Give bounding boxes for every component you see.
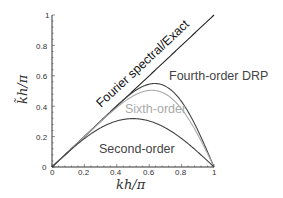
y-tick-1: 1 [45, 11, 50, 20]
x-tick-08: 0.8 [175, 168, 187, 177]
x-axis-label: kh/π [116, 177, 146, 192]
y-tick-06: 0.6 [36, 72, 48, 81]
y-tick-04: 0.4 [36, 103, 48, 112]
x-tick-04: 0.4 [110, 168, 122, 177]
x-tick-02: 0.2 [78, 168, 90, 177]
label-fourth-drp: Fourth-order DRP [169, 69, 268, 83]
y-axis-label: k̃h/π [14, 74, 30, 104]
label-sixth: Sixth-order [125, 102, 186, 116]
y-tick-0: 0 [42, 163, 47, 172]
x-tick-1: 1 [212, 168, 217, 177]
chart: 0 0.2 0.4 0.6 0.8 1 0 0.2 0.4 0.6 0.8 1 … [0, 0, 283, 198]
x-tick-0: 0 [50, 168, 55, 177]
label-second: Second-order [99, 142, 175, 156]
x-tick-06: 0.6 [143, 168, 155, 177]
y-tick-08: 0.8 [36, 42, 48, 51]
y-tick-02: 0.2 [36, 133, 48, 142]
